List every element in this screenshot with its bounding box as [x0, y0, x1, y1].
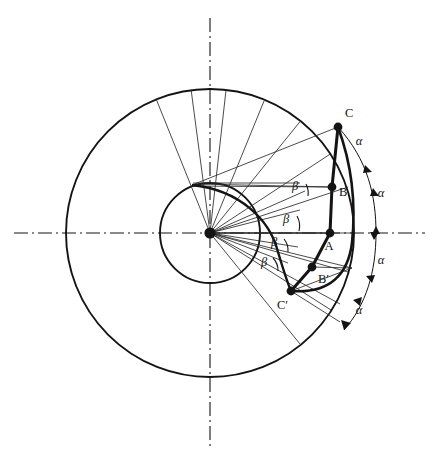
geometry-diagram: C B A B′ C′ α α α α β β β β — [0, 0, 439, 454]
figure-caption — [0, 444, 439, 454]
radial-lines-group — [156, 90, 354, 344]
alpha-labels-group: α α α α — [356, 134, 385, 317]
beta-label-3: β — [270, 235, 278, 249]
point-label-B-prime: B′ — [318, 272, 329, 286]
point-label-B: B — [339, 185, 347, 199]
point-label-C-prime: C′ — [277, 298, 288, 312]
point-marker-B — [328, 183, 337, 192]
alpha-arrowhead-5 — [366, 275, 375, 283]
point-markers-group — [287, 123, 343, 296]
point-marker-A — [326, 229, 335, 238]
alpha-label-3: α — [378, 253, 385, 267]
radial-line-11 — [210, 233, 300, 344]
point-marker-C — [334, 123, 343, 132]
beta-label-2: β — [282, 212, 290, 226]
alpha-label-2: α — [378, 186, 385, 200]
involute-arc — [291, 127, 353, 291]
alpha-label-1: α — [356, 134, 363, 148]
radial-line-7 — [210, 187, 348, 233]
construction-line-Cp3 — [291, 291, 340, 322]
chord-lines-group — [191, 183, 332, 233]
point-label-A: A — [324, 239, 333, 253]
alpha-dimension-arc-group — [338, 127, 380, 330]
construction-line-C — [192, 127, 338, 185]
chain-segment-B-A — [330, 187, 332, 233]
beta-arc-2 — [297, 216, 300, 231]
alpha-arrowhead-7 — [341, 320, 351, 330]
point-marker-Cp — [287, 287, 296, 296]
alpha-arrowhead-4 — [370, 232, 379, 240]
radial-line-3 — [210, 90, 226, 233]
beta-label-4: β — [260, 255, 268, 269]
beta-arc-1 — [306, 184, 308, 196]
radial-line-2 — [191, 90, 210, 233]
center-dot — [204, 227, 215, 238]
alpha-label-4: α — [356, 303, 363, 317]
point-label-C: C — [345, 106, 353, 120]
center-hub-group — [204, 227, 215, 238]
alpha-arrowhead-1 — [363, 165, 372, 173]
point-marker-Bp — [308, 263, 317, 272]
beta-label-1: β — [291, 179, 299, 193]
figure-root: C B A B′ C′ α α α α β β β β — [0, 0, 439, 454]
